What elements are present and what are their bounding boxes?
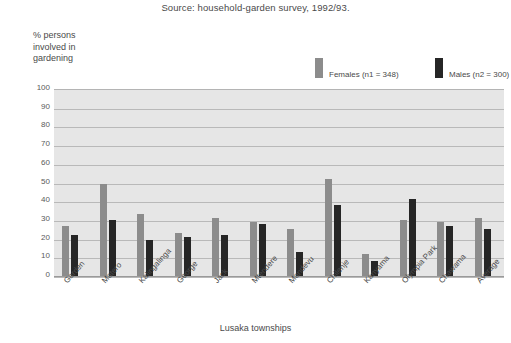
legend-label-males: Males (n2 = 300) [449,70,509,79]
bar-females[interactable] [137,214,144,276]
y-tick-label: 20 [20,233,50,242]
y-tick-label: 90 [20,102,50,111]
y-axis-caption: % persons involved in gardening [33,30,128,65]
bar-group [317,90,355,276]
bar-group [54,90,92,276]
bar-females[interactable] [175,233,182,276]
bar-females[interactable] [287,229,294,276]
bar-group [204,90,242,276]
bar-females[interactable] [100,184,107,276]
y-tick-label: 50 [20,177,50,186]
bar-females[interactable] [475,218,482,276]
bar-group [354,90,392,276]
bar-group [392,90,430,276]
y-tick-label: 40 [20,195,50,204]
y-axis-caption-line-1: % persons [33,30,128,42]
y-axis-tick-labels: 0102030405060708090100 [20,83,50,282]
chart-legend: Females (n1 = 348) Males (n2 = 300) [315,58,511,82]
bar-females[interactable] [212,218,219,276]
y-tick-label: 80 [20,120,50,129]
y-axis-caption-line-3: gardening [33,53,128,65]
y-tick-label: 10 [20,251,50,260]
y-tick-label: 60 [20,158,50,167]
y-tick-label: 0 [20,270,50,279]
y-tick-label: 30 [20,214,50,223]
bar-group [92,90,130,276]
legend-swatch-females-icon [315,58,323,78]
bar-females[interactable] [325,179,332,276]
legend-swatch-males-icon [435,58,443,78]
legend-label-females: Females (n1 = 348) [329,70,399,79]
bar-females[interactable] [250,222,257,276]
bar-females[interactable] [400,220,407,276]
bar-group [279,90,317,276]
bar-group [467,90,505,276]
bar-group [167,90,205,276]
x-axis-title: Lusaka townships [0,323,511,333]
bar-group [242,90,280,276]
x-axis-tick-labels: GardenMateroKalingalingaGeorgeJackMtende… [54,276,511,328]
y-axis-caption-line-2: involved in [33,42,128,54]
bar-group [129,90,167,276]
source-note: Source: household-garden survey, 1992/93… [0,2,511,13]
y-tick-label: 70 [20,139,50,148]
y-tick-label: 100 [20,83,50,92]
bar-females[interactable] [62,226,69,276]
